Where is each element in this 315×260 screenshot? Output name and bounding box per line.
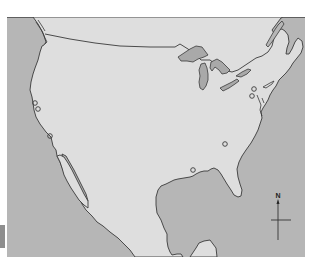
map: N [7, 17, 305, 257]
north-label: N [275, 192, 280, 199]
edge-tab [0, 225, 5, 248]
